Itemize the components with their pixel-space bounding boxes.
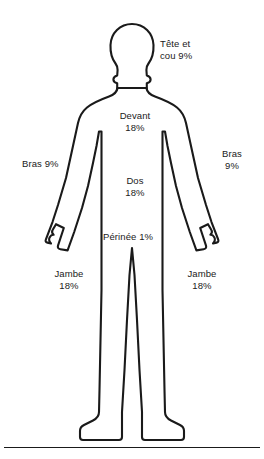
label-leg-right: Jambe 18% — [178, 268, 226, 292]
head-outline — [110, 24, 153, 94]
bottom-divider — [4, 447, 260, 448]
body-outline — [46, 88, 219, 440]
label-back-torso: Dos 18% — [104, 175, 166, 199]
label-head-neck: Tête et cou 9% — [160, 38, 192, 62]
label-perineum: Périnée 1% — [103, 231, 153, 243]
label-leg-left: Jambe 18% — [45, 268, 93, 292]
label-arm-left: Bras 9% — [22, 158, 59, 170]
label-front-torso: Devant 18% — [104, 110, 166, 134]
body-silhouette-front-icon — [0, 0, 264, 459]
body-surface-diagram: Tête et cou 9% Devant 18% Bras 9% Bras 9… — [0, 0, 264, 459]
label-arm-right: Bras 9% — [212, 148, 252, 172]
